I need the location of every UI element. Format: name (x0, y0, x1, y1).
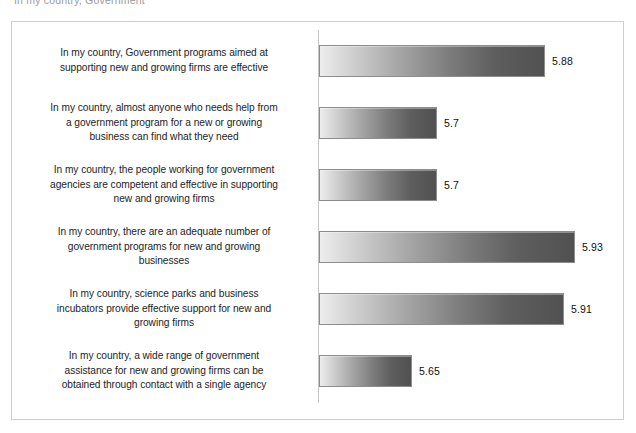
bar-track: 5.7 (319, 107, 459, 139)
category-label: In my country, science parks and busines… (16, 287, 312, 331)
category-label: In my country, almost anyone who needs h… (16, 101, 312, 145)
bar-value-label: 5.7 (444, 117, 459, 129)
bar[interactable] (319, 293, 564, 325)
bar-value-label: 5.91 (571, 303, 592, 315)
bar-row: In my country, Government programs aimed… (12, 30, 623, 92)
chart-frame: In my country, Government programs aimed… (11, 21, 624, 420)
category-label-line: assistance for new and growing firms can… (65, 365, 264, 376)
category-label: In my country, a wide range of governmen… (16, 349, 312, 393)
category-label-line: agencies are competent and effective in … (50, 179, 278, 190)
bar[interactable] (319, 107, 437, 139)
category-label-line: In my country, Government programs aimed… (60, 47, 268, 58)
bar-value-label: 5.7 (444, 179, 459, 191)
category-label-line: business can find what they need (89, 131, 238, 142)
bar[interactable] (319, 355, 412, 387)
bar-track: 5.91 (319, 293, 592, 325)
bar-value-label: 5.65 (419, 365, 440, 377)
bar-row: In my country, a wide range of governmen… (12, 340, 623, 402)
bar-row: In my country, the people working for go… (12, 154, 623, 216)
bar-row: In my country, there are an adequate num… (12, 216, 623, 278)
bar[interactable] (319, 231, 575, 263)
bar-track: 5.65 (319, 355, 440, 387)
category-label: In my country, there are an adequate num… (16, 225, 312, 269)
category-label: In my country, the people working for go… (16, 163, 312, 207)
category-label-line: In my country, almost anyone who needs h… (50, 102, 277, 113)
bar-chart-plot-area: In my country, Government programs aimed… (12, 22, 623, 419)
bar[interactable] (319, 169, 437, 201)
category-label-line: growing firms (134, 317, 194, 328)
category-label: In my country, Government programs aimed… (16, 46, 312, 75)
category-label-line: government programs for new and growing (68, 241, 260, 252)
category-label-line: incubators provide effective support for… (57, 303, 271, 314)
bar-track: 5.88 (319, 45, 573, 77)
category-label-line: obtained through contact with a single a… (62, 379, 266, 390)
bar-value-label: 5.88 (552, 55, 573, 67)
category-label-line: a government program for a new or growin… (66, 117, 262, 128)
clipped-header-text: In my country, Government (14, 0, 414, 6)
category-label-line: In my country, a wide range of governmen… (69, 350, 259, 361)
bar-track: 5.93 (319, 231, 603, 263)
category-label-line: In my country, there are an adequate num… (58, 226, 271, 237)
bar-row: In my country, almost anyone who needs h… (12, 92, 623, 154)
bar-row: In my country, science parks and busines… (12, 278, 623, 340)
bar[interactable] (319, 45, 545, 77)
category-label-line: In my country, science parks and busines… (69, 288, 258, 299)
bar-value-label: 5.93 (582, 241, 603, 253)
category-label-line: In my country, the people working for go… (54, 164, 275, 175)
category-label-line: businesses (139, 255, 189, 266)
bar-track: 5.7 (319, 169, 459, 201)
category-label-line: new and growing firms (114, 193, 215, 204)
category-label-line: supporting new and growing firms are eff… (60, 62, 268, 73)
